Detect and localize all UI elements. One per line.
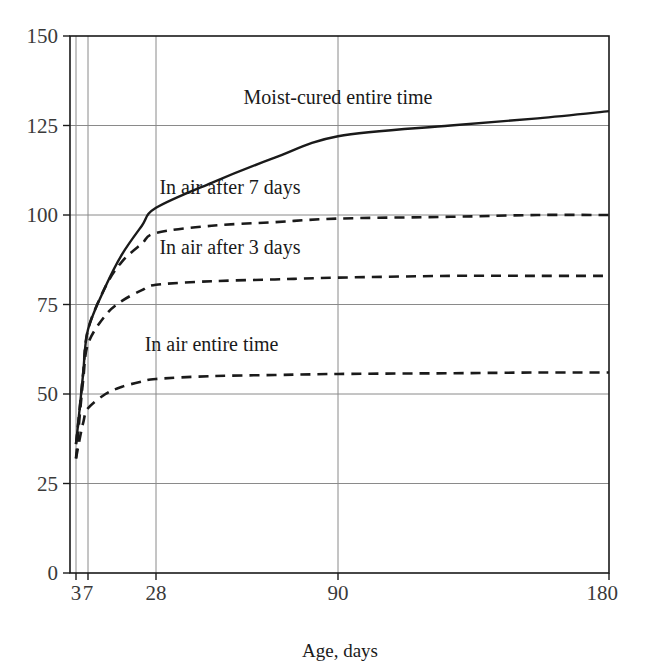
x-tick-label: 180: [587, 581, 619, 605]
y-tick-label: 125: [27, 114, 59, 138]
y-axis-tick-labels: 0255075100125150: [27, 24, 59, 585]
x-axis-tick-labels: 372890180: [71, 581, 618, 605]
y-tick-label: 0: [48, 561, 59, 585]
y-tick-label: 100: [27, 203, 59, 227]
x-tick-label: 28: [146, 581, 167, 605]
series-label-0: Moist-cured entire time: [244, 86, 433, 108]
y-tick-label: 25: [37, 472, 58, 496]
chart-figure: 0255075100125150 372890180 Moist-cured e…: [0, 0, 651, 672]
series-label-1: In air after 7 days: [159, 176, 300, 199]
x-tick-label: 7: [83, 581, 94, 605]
tick-marks: [63, 36, 609, 580]
y-tick-label: 50: [37, 382, 58, 406]
x-tick-label: 3: [71, 581, 82, 605]
series-label-3: In air entire time: [145, 333, 279, 355]
y-tick-label: 75: [37, 293, 58, 317]
x-tick-label: 90: [328, 581, 349, 605]
y-tick-label: 150: [27, 24, 59, 48]
series-annotations: Moist-cured entire timeIn air after 7 da…: [145, 86, 433, 355]
series-label-2: In air after 3 days: [159, 236, 300, 259]
gridlines: [70, 36, 609, 573]
x-axis-title: Age, days: [302, 640, 378, 661]
